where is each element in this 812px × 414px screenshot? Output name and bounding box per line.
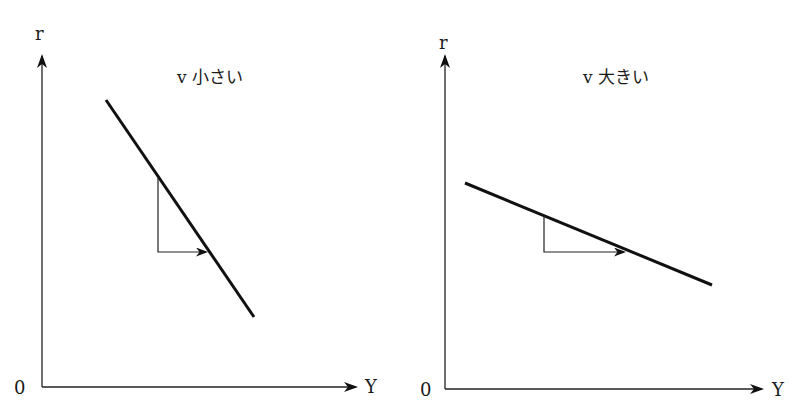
left-curve: [106, 100, 254, 317]
right-title: v 大きい: [582, 67, 649, 87]
right-y-label: r: [439, 32, 448, 53]
left-y-label: r: [35, 23, 44, 44]
diagram-canvas: r Y 0 v 小さい r Y 0 v 大きい: [0, 0, 812, 414]
left-title: v 小さい: [176, 67, 243, 87]
right-panel: r Y 0 v 大きい: [420, 32, 785, 400]
right-x-label: Y: [771, 379, 785, 400]
left-x-label: Y: [364, 376, 378, 397]
right-origin-label: 0: [420, 379, 431, 400]
left-panel: r Y 0 v 小さい: [14, 23, 378, 398]
right-curve: [465, 183, 712, 285]
left-origin-label: 0: [14, 377, 25, 398]
